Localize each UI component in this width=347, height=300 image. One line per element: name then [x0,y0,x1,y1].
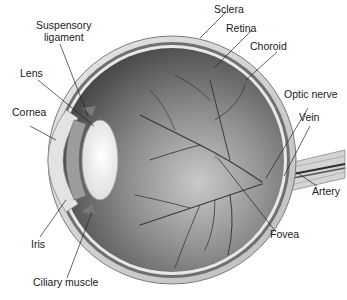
label-cornea: Cornea [12,106,46,118]
label-suspensory-ligament: Suspensory ligament [36,19,91,43]
label-choroid: Choroid [250,40,287,52]
label-fovea: Fovea [270,228,299,240]
label-suspensory-line1: Suspensory [36,19,91,31]
label-artery: Artery [312,185,340,197]
label-lens: Lens [20,67,43,79]
label-sclera: Sclera [214,3,244,15]
label-vein: Vein [299,111,319,123]
eye-diagram [0,0,347,300]
label-suspensory-line2: ligament [36,31,91,43]
label-retina: Retina [226,22,256,34]
fovea-spot [214,155,218,159]
label-ciliary-muscle: Ciliary muscle [33,276,98,288]
label-optic-nerve: Optic nerve [284,88,338,100]
label-iris: Iris [31,238,45,250]
lens-shape [82,120,118,200]
